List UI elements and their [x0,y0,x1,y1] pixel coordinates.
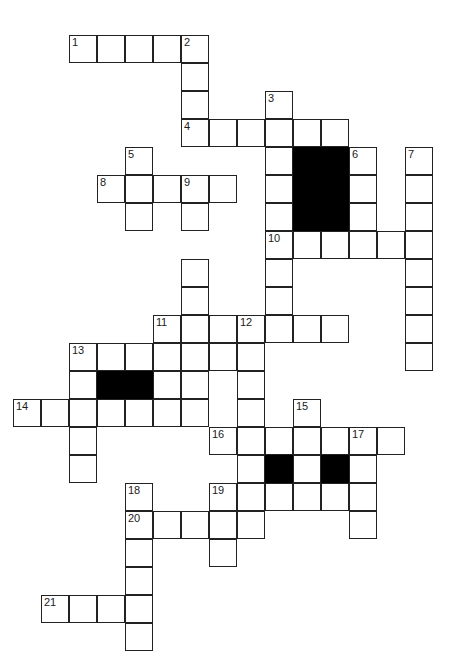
grid-cell[interactable] [237,371,265,399]
grid-cell[interactable] [293,427,321,455]
grid-cell[interactable]: 12 [237,315,265,343]
grid-cell[interactable]: 5 [125,147,153,175]
grid-cell[interactable]: 13 [69,343,97,371]
grid-cell[interactable] [405,231,433,259]
grid-cell[interactable] [349,231,377,259]
grid-cell[interactable]: 14 [13,399,41,427]
grid-cell[interactable] [97,595,125,623]
grid-cell[interactable]: 4 [181,119,209,147]
grid-cell[interactable] [293,315,321,343]
grid-cell[interactable] [237,455,265,483]
grid-cell[interactable] [209,119,237,147]
grid-cell[interactable] [265,287,293,315]
grid-cell[interactable] [153,35,181,63]
grid-cell[interactable] [321,231,349,259]
grid-cell[interactable] [321,427,349,455]
grid-cell[interactable] [265,119,293,147]
grid-cell[interactable] [181,371,209,399]
grid-cell[interactable] [293,483,321,511]
grid-cell[interactable] [209,539,237,567]
grid-cell[interactable] [125,595,153,623]
grid-cell[interactable] [405,287,433,315]
grid-cell[interactable] [209,343,237,371]
grid-cell[interactable] [349,175,377,203]
grid-cell[interactable] [237,427,265,455]
grid-cell[interactable] [265,483,293,511]
grid-cell[interactable] [153,399,181,427]
grid-cell[interactable] [265,427,293,455]
grid-cell[interactable] [265,175,293,203]
grid-cell[interactable] [181,63,209,91]
grid-cell[interactable] [97,343,125,371]
grid-cell[interactable]: 3 [265,91,293,119]
grid-cell[interactable] [237,511,265,539]
grid-cell[interactable] [349,483,377,511]
grid-cell[interactable] [125,343,153,371]
grid-cell[interactable] [125,567,153,595]
grid-cell[interactable] [97,399,125,427]
grid-cell[interactable] [181,343,209,371]
grid-cell[interactable]: 18 [125,483,153,511]
grid-cell[interactable] [209,315,237,343]
grid-cell[interactable] [405,315,433,343]
grid-cell[interactable] [181,259,209,287]
grid-cell[interactable] [237,483,265,511]
grid-cell[interactable] [125,35,153,63]
grid-cell[interactable] [209,175,237,203]
grid-cell[interactable] [97,35,125,63]
grid-cell[interactable] [377,231,405,259]
grid-cell[interactable]: 15 [293,399,321,427]
grid-cell[interactable] [153,175,181,203]
grid-cell[interactable] [405,175,433,203]
grid-cell[interactable] [69,399,97,427]
grid-cell[interactable] [265,259,293,287]
grid-cell[interactable]: 16 [209,427,237,455]
grid-cell[interactable]: 2 [181,35,209,63]
grid-cell[interactable] [293,119,321,147]
grid-cell[interactable] [377,427,405,455]
grid-cell[interactable] [125,175,153,203]
grid-cell[interactable] [69,371,97,399]
grid-cell[interactable] [69,595,97,623]
grid-cell[interactable] [181,287,209,315]
grid-cell[interactable]: 11 [153,315,181,343]
grid-cell[interactable] [321,119,349,147]
grid-cell[interactable]: 10 [265,231,293,259]
grid-cell[interactable]: 7 [405,147,433,175]
grid-cell[interactable] [293,231,321,259]
grid-cell[interactable] [181,511,209,539]
grid-cell[interactable] [153,371,181,399]
grid-cell[interactable]: 9 [181,175,209,203]
grid-cell[interactable] [321,315,349,343]
grid-cell[interactable] [293,455,321,483]
grid-cell[interactable] [125,399,153,427]
grid-cell[interactable] [69,455,97,483]
grid-cell[interactable] [349,455,377,483]
grid-cell[interactable] [69,427,97,455]
grid-cell[interactable] [209,511,237,539]
grid-cell[interactable] [153,343,181,371]
grid-cell[interactable] [181,91,209,119]
grid-cell[interactable]: 21 [41,595,69,623]
grid-cell[interactable]: 17 [349,427,377,455]
grid-cell[interactable]: 8 [97,175,125,203]
grid-cell[interactable] [349,511,377,539]
grid-cell[interactable] [265,147,293,175]
grid-cell[interactable] [181,399,209,427]
grid-cell[interactable] [125,203,153,231]
grid-cell[interactable] [153,511,181,539]
grid-cell[interactable]: 1 [69,35,97,63]
grid-cell[interactable] [125,623,153,651]
grid-cell[interactable] [265,315,293,343]
grid-cell[interactable] [181,203,209,231]
grid-cell[interactable] [405,203,433,231]
grid-cell[interactable] [237,399,265,427]
grid-cell[interactable] [405,259,433,287]
grid-cell[interactable] [181,315,209,343]
grid-cell[interactable] [237,343,265,371]
grid-cell[interactable] [405,343,433,371]
grid-cell[interactable]: 20 [125,511,153,539]
grid-cell[interactable] [125,539,153,567]
grid-cell[interactable] [321,483,349,511]
grid-cell[interactable]: 6 [349,147,377,175]
